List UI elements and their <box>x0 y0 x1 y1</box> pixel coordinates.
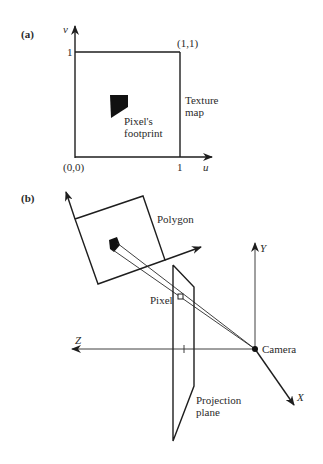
u-axis-label: u <box>203 161 209 173</box>
y-axis-label: Y <box>260 242 268 254</box>
x-axis <box>255 349 294 405</box>
texture-label-2: map <box>185 106 204 118</box>
z-axis-label: Z <box>75 334 82 346</box>
panel-b: (b) Polygon Pixel Projection plane Y Z C… <box>21 192 305 441</box>
polygon-shape <box>75 196 165 284</box>
v-tick-1: 1 <box>67 46 73 58</box>
pixel-square <box>178 294 183 299</box>
footprint-label-1: Pixel's <box>124 115 153 127</box>
panel-a: (a) v 1 (1,1) Texture map Pixel's footpr… <box>21 23 219 174</box>
ray-upper <box>117 243 255 349</box>
ray-lower <box>113 250 255 349</box>
polygon-axis-right <box>165 247 201 260</box>
projection-plane <box>173 265 194 441</box>
figure: (a) v 1 (1,1) Texture map Pixel's footpr… <box>0 0 323 464</box>
origin-label: (0,0) <box>63 161 84 174</box>
camera-point <box>252 346 258 352</box>
panel-b-label: (b) <box>21 192 35 205</box>
v-axis-label: v <box>63 23 68 35</box>
panel-a-label: (a) <box>21 28 34 41</box>
plane-label-1: Projection <box>196 394 242 406</box>
texture-label-1: Texture <box>185 94 219 106</box>
polygon-label: Polygon <box>157 213 194 225</box>
pixel-label: Pixel <box>150 294 173 306</box>
x-axis-label: X <box>296 391 305 403</box>
camera-label: Camera <box>262 343 296 355</box>
u-tick-1: 1 <box>177 161 183 173</box>
footprint-label-2: footprint <box>124 127 163 139</box>
polygon-axis-up <box>66 192 75 219</box>
corner-label: (1,1) <box>177 37 198 50</box>
plane-label-2: plane <box>196 406 220 418</box>
